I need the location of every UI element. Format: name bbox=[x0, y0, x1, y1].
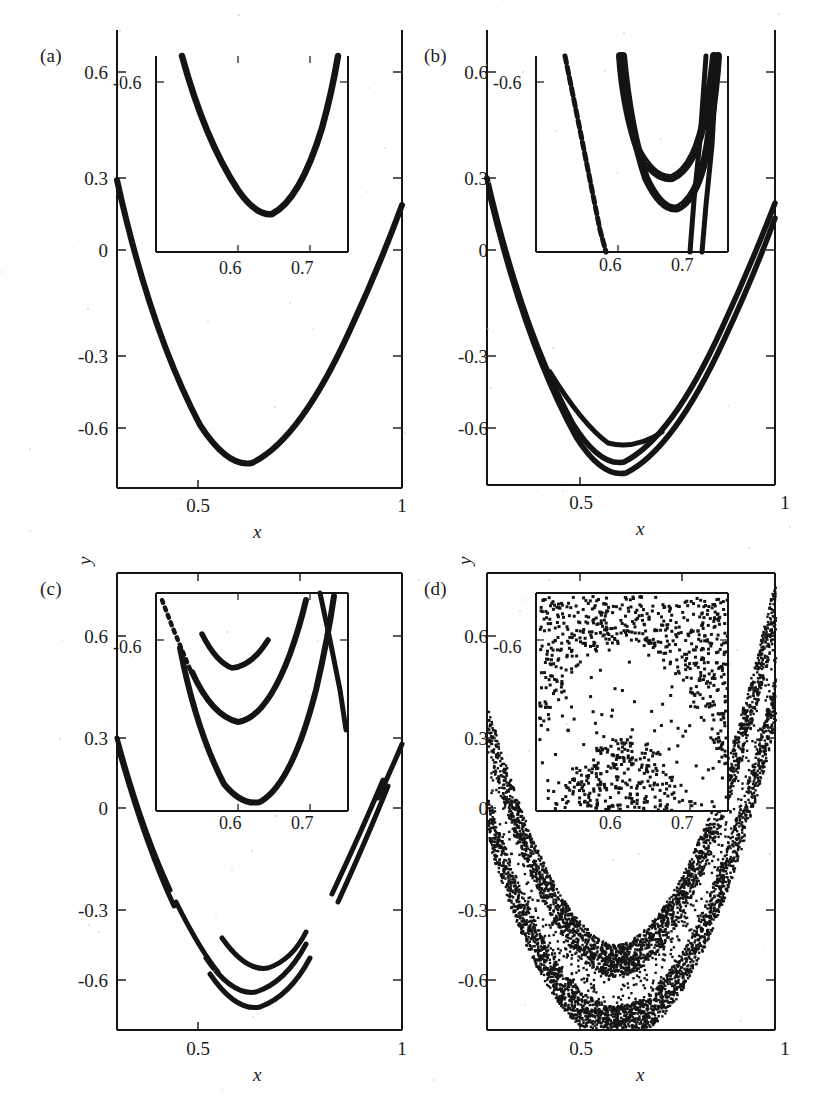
page-speckle bbox=[59, 738, 61, 740]
page-speckle bbox=[221, 1089, 223, 1091]
page-speckle bbox=[809, 65, 810, 66]
page-speckle bbox=[588, 1067, 589, 1068]
page-speckle bbox=[87, 308, 89, 310]
page-speckle bbox=[625, 473, 626, 474]
page-speckle bbox=[638, 853, 640, 855]
page-speckle bbox=[605, 96, 606, 97]
page-speckle bbox=[730, 521, 731, 522]
page-speckle bbox=[366, 191, 368, 193]
page-speckle bbox=[133, 242, 134, 243]
panel-a-plot bbox=[0, 0, 410, 560]
page-speckle bbox=[1, 271, 3, 273]
page-speckle bbox=[71, 795, 73, 797]
page-speckle bbox=[29, 448, 31, 450]
panel-b: (b) 0.6 0.3 0 -0.3 -0.6 0.5 1 x -0.6 0.6… bbox=[410, 0, 821, 560]
page-speckle bbox=[719, 125, 720, 126]
page-speckle bbox=[604, 70, 606, 72]
page-speckle bbox=[515, 745, 516, 746]
page-speckle bbox=[701, 556, 702, 557]
page-speckle bbox=[482, 575, 483, 576]
panel-b-plot bbox=[410, 0, 821, 560]
page-speckle bbox=[264, 1000, 266, 1002]
page-speckle bbox=[490, 503, 491, 504]
page-speckle bbox=[704, 895, 706, 897]
page-speckle bbox=[487, 328, 489, 330]
panel-d: y (d) 0.6 0.3 0 -0.3 -0.6 0.5 1 x -0.6 0… bbox=[410, 530, 821, 1119]
page-speckle bbox=[714, 1033, 715, 1034]
page-speckle bbox=[333, 45, 334, 46]
figure-root: (a) 0.6 0.3 0 -0.3 -0.6 0.5 1 x -0.6 0.6… bbox=[0, 0, 821, 1119]
page-speckle bbox=[759, 712, 760, 713]
page-speckle bbox=[447, 173, 448, 174]
page-speckle bbox=[490, 387, 492, 389]
page-speckle bbox=[36, 480, 37, 481]
page-speckle bbox=[275, 815, 277, 817]
figure-caption bbox=[8, 1104, 813, 1119]
page-speckle bbox=[231, 869, 233, 871]
page-speckle bbox=[404, 432, 406, 434]
page-speckle bbox=[61, 1092, 62, 1093]
panel-c-plot bbox=[0, 530, 410, 1119]
page-speckle bbox=[748, 547, 750, 549]
page-speckle bbox=[80, 95, 81, 96]
page-speckle bbox=[468, 455, 469, 456]
panel-d-plot bbox=[410, 530, 821, 1119]
page-speckle bbox=[748, 803, 749, 804]
page-speckle bbox=[812, 827, 813, 828]
page-speckle bbox=[736, 649, 738, 651]
panel-a: (a) 0.6 0.3 0 -0.3 -0.6 0.5 1 x -0.6 0.6… bbox=[0, 0, 410, 560]
page-speckle bbox=[669, 594, 671, 596]
page-speckle bbox=[61, 640, 63, 642]
page-speckle bbox=[489, 181, 491, 183]
page-speckle bbox=[433, 1079, 435, 1081]
page-speckle bbox=[678, 731, 680, 733]
page-speckle bbox=[29, 530, 31, 532]
page-speckle bbox=[462, 121, 463, 122]
page-speckle bbox=[274, 406, 276, 408]
panel-c: y (c) 0.6 0.3 0 -0.3 -0.6 0.5 1 x -0.6 0… bbox=[0, 530, 410, 1119]
page-speckle bbox=[563, 479, 565, 481]
page-speckle bbox=[552, 347, 554, 349]
page-speckle bbox=[713, 611, 714, 612]
page-speckle bbox=[660, 742, 662, 744]
page-speckle bbox=[509, 568, 510, 569]
page-speckle bbox=[468, 577, 469, 578]
page-speckle bbox=[88, 924, 90, 926]
page-speckle bbox=[50, 1, 51, 2]
page-speckle bbox=[739, 168, 740, 169]
page-speckle bbox=[260, 140, 261, 141]
